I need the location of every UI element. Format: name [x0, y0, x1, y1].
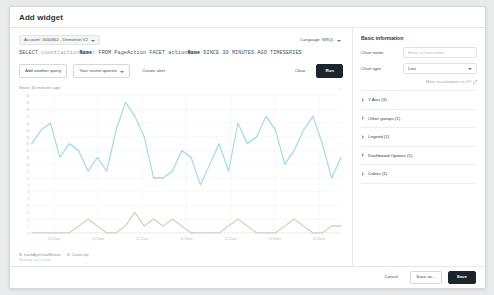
- create-alert-button[interactable]: Create alert: [136, 64, 171, 77]
- legend-item[interactable]: Count.api: [67, 252, 89, 257]
- query-action-bar: Add another query Your recent queries Cr…: [10, 56, 352, 77]
- chevron-right-icon: [362, 172, 364, 176]
- chevron-right-icon: [362, 135, 364, 139]
- query-and-chart-pane: Account: 1600662 - Demotron V2 Language:…: [10, 28, 353, 266]
- y-axis-tick-label: 1: [28, 224, 30, 228]
- legend-item[interactable]: trackAppInstallButton: [19, 252, 61, 257]
- y-axis-tick-label: 12: [26, 149, 29, 153]
- app-root: Add widget Account: 1600662 - Demotron V…: [0, 0, 494, 295]
- query-toolbar-top: Account: 1600662 - Demotron V2 Language:…: [10, 28, 352, 45]
- x-axis-tick-label: 11:05am: [48, 237, 60, 241]
- ellipsis-icon[interactable]: …: [338, 85, 344, 90]
- chevron-down-icon: [120, 71, 124, 73]
- chevron-right-icon: [362, 98, 364, 102]
- chart-type-row: Chart type Line: [361, 63, 477, 74]
- nrql-editor-row: SELECT count(actionName) FROM PageAction…: [10, 45, 352, 56]
- accordion-section-other-groups-1[interactable]: Other groups (1): [361, 110, 477, 129]
- chart-type-value: Line: [408, 66, 416, 71]
- y-axis-tick-label: 13: [26, 142, 29, 146]
- add-widget-modal: Add widget Account: 1600662 - Demotron V…: [9, 6, 486, 289]
- x-axis-tick-label: 11:15am: [136, 237, 148, 241]
- modal-header: Add widget: [10, 7, 485, 28]
- y-axis-tick-label: 20: [26, 94, 29, 98]
- legend-color-swatch: [67, 253, 70, 256]
- x-axis-tick-label: 11:10am: [92, 237, 104, 241]
- y-axis-tick-label: 7: [28, 183, 30, 187]
- chart-name-row: Chart name Enter a chart name: [361, 47, 477, 58]
- y-axis-tick-label: 18: [26, 108, 29, 112]
- y-axis-tick-label: 16: [26, 121, 29, 125]
- chart-type-label: Chart type: [361, 66, 403, 71]
- y-axis-tick-label: 0: [28, 231, 30, 235]
- more-visualizations-row: More visualizations in I/O: [361, 79, 477, 84]
- more-visualizations-label: More visualizations in I/O: [426, 79, 472, 84]
- recent-queries-button[interactable]: Your recent queries: [73, 64, 130, 77]
- run-button[interactable]: Run: [316, 64, 343, 77]
- language-selector[interactable]: Language: NRQL: [299, 35, 343, 45]
- accordion-section-label: Dashboard Options (1): [368, 153, 412, 158]
- external-link-icon: [473, 80, 477, 84]
- more-visualizations-link[interactable]: More visualizations in I/O: [426, 79, 477, 84]
- x-axis-tick-label: 11:25am: [224, 237, 236, 241]
- y-axis-tick-label: 6: [28, 190, 30, 194]
- save-button[interactable]: Save: [448, 271, 476, 284]
- chevron-right-icon: [362, 116, 364, 120]
- chart-legend: trackAppInstallButtonCount.api: [19, 252, 343, 257]
- y-axis-tick-label: 15: [26, 128, 29, 132]
- y-axis-tick-label: 9: [28, 169, 30, 173]
- y-axis-tick-label: 2: [28, 217, 30, 221]
- chevron-right-icon: [362, 153, 364, 157]
- y-axis-tick-label: 14: [26, 135, 29, 139]
- chevron-down-icon: [468, 68, 472, 70]
- chart-name-label: Chart name: [361, 50, 403, 55]
- x-axis-tick-label: 11:20am: [180, 237, 192, 241]
- y-axis-tick-label: 17: [26, 114, 29, 118]
- y-axis-tick-label: 8: [28, 176, 30, 180]
- y-axis-tick-label: 3: [28, 210, 30, 214]
- accordion-section-label: Legend (1): [368, 134, 389, 139]
- language-selector-label: Language: NRQL: [301, 38, 334, 42]
- save-as-button[interactable]: Save as...: [410, 271, 442, 284]
- settings-accordion: Y Axis (3)Other groups (1)Legend (1)Dash…: [361, 90, 477, 184]
- clear-button[interactable]: Clear: [289, 64, 312, 77]
- accordion-section-label: Other groups (1): [368, 116, 400, 121]
- x-axis-tick-label: 11:30am: [269, 237, 281, 241]
- chevron-down-icon: [337, 40, 341, 42]
- y-axis-tick-label: 10: [26, 162, 29, 166]
- widget-settings-pane: Basic information Chart name Enter a cha…: [353, 28, 485, 266]
- accordion-section-legend-1[interactable]: Legend (1): [361, 128, 477, 147]
- legend-series-label: trackAppInstallButton: [24, 252, 61, 257]
- recent-queries-label: Your recent queries: [79, 69, 117, 73]
- accordion-section-colors-1[interactable]: Colors (1): [361, 165, 477, 184]
- accordion-section-dashboard-options-1[interactable]: Dashboard Options (1): [361, 147, 477, 166]
- modal-body: Account: 1600662 - Demotron V2 Language:…: [10, 28, 485, 266]
- x-axis-tick-label: 11:35am: [313, 237, 325, 241]
- basic-information-heading: Basic information: [361, 35, 477, 41]
- chevron-down-icon: [91, 40, 95, 42]
- legend-series-label: Count.api: [72, 252, 89, 257]
- chart-container: Since 30 minutes ago … 01234567891011121…: [10, 78, 352, 266]
- chart-time-range-label: Since 30 minutes ago: [19, 85, 60, 90]
- accordion-section-y-axis-3[interactable]: Y Axis (3): [361, 91, 477, 110]
- legend-color-swatch: [19, 253, 22, 256]
- account-selector[interactable]: Account: 1600662 - Demotron V2: [19, 35, 100, 45]
- add-another-query-button[interactable]: Add another query: [19, 64, 67, 77]
- y-axis-tick-label: 11: [26, 156, 29, 160]
- chart-header: Since 30 minutes ago …: [19, 85, 343, 90]
- account-selector-label: Account: 1600662 - Demotron V2: [24, 38, 88, 42]
- y-axis-tick-label: 4: [28, 204, 30, 208]
- line-chart-svg: 0123456789101112131415161718192011:05am1…: [19, 92, 343, 249]
- y-axis-tick-label: 5: [28, 197, 30, 201]
- run-group: Clear Run: [289, 64, 343, 77]
- accordion-section-label: Y Axis (3): [368, 97, 387, 102]
- chart-type-select[interactable]: Line: [403, 63, 477, 74]
- legend-note: Showing 2 of 2 series: [19, 258, 343, 262]
- accordion-section-label: Colors (1): [368, 171, 387, 176]
- chart-name-input[interactable]: Enter a chart name: [403, 47, 477, 58]
- page-title: Add widget: [19, 13, 63, 22]
- y-axis-tick-label: 19: [26, 101, 29, 105]
- cancel-button[interactable]: Cancel: [379, 271, 405, 284]
- modal-footer: Cancel Save as... Save: [10, 266, 485, 288]
- chart-plot-area: 0123456789101112131415161718192011:05am1…: [19, 92, 343, 249]
